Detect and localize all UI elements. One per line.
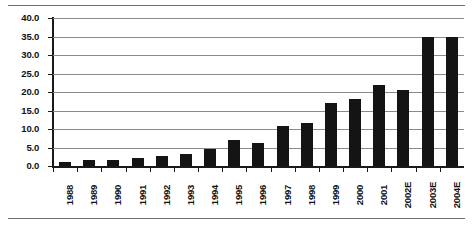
- bar: [349, 99, 361, 166]
- bar: [373, 85, 385, 166]
- bar: [156, 156, 168, 166]
- bar-slot: [246, 18, 270, 166]
- x-axis-tick-mark: [319, 168, 320, 172]
- y-axis-tick-label: 15.0: [0, 106, 39, 116]
- x-axis-tick-label: 2000: [355, 185, 365, 205]
- x-axis-tick-mark: [416, 168, 417, 172]
- x-axis-tick-mark: [246, 168, 247, 172]
- bar: [397, 90, 409, 166]
- bar: [132, 158, 144, 167]
- x-label-slot: 1992: [150, 173, 174, 217]
- bar: [301, 123, 313, 166]
- x-axis-tick-label: 2002E: [403, 182, 413, 208]
- bar: [446, 37, 458, 167]
- y-axis-tick-label: 10.0: [0, 124, 39, 134]
- x-axis-tick-label: 1992: [162, 185, 172, 205]
- x-axis-tick-label: 2001: [379, 185, 389, 205]
- x-label-slot: 1999: [319, 173, 343, 217]
- bottom-divider-rule: [8, 218, 465, 219]
- x-axis-tick-mark: [440, 168, 441, 172]
- x-axis-tick-label: 2003E: [428, 182, 438, 208]
- x-axis-tick-mark: [174, 168, 175, 172]
- bar: [107, 160, 119, 166]
- x-axis-tick-label: 1996: [258, 185, 268, 205]
- bar: [277, 126, 289, 166]
- x-axis-tick-mark: [367, 168, 368, 172]
- bar-chart-figure: 40.035.030.025.020.015.010.05.00.0 19881…: [0, 0, 473, 225]
- bar-slot: [101, 18, 125, 166]
- bar-slot: [150, 18, 174, 166]
- bar-slot: [271, 18, 295, 166]
- x-label-slot: 1994: [198, 173, 222, 217]
- bar: [325, 103, 337, 166]
- bar-slot: [343, 18, 367, 166]
- x-label-slot: 2004E: [440, 173, 464, 217]
- x-label-slot: 1995: [222, 173, 246, 217]
- bar-slot: [416, 18, 440, 166]
- y-axis-tick-label: 35.0: [0, 32, 39, 42]
- x-axis-tick-mark: [101, 168, 102, 172]
- y-axis-tick-label: 30.0: [0, 50, 39, 60]
- bar: [180, 154, 192, 166]
- x-axis-tick-mark: [77, 168, 78, 172]
- x-axis-tick-label: 1999: [331, 185, 341, 205]
- bar: [422, 37, 434, 167]
- x-axis-tick-label: 1993: [186, 185, 196, 205]
- x-label-slot: 2003E: [416, 173, 440, 217]
- top-divider-rule: [8, 5, 465, 6]
- bar-slot: [174, 18, 198, 166]
- x-label-slot: 1998: [295, 173, 319, 217]
- x-axis-tick-label: 1994: [210, 185, 220, 205]
- x-label-slot: 2002E: [391, 173, 415, 217]
- x-axis-tick-mark: [391, 168, 392, 172]
- y-axis-tick-label: 40.0: [0, 13, 39, 23]
- x-axis-tick-label: 1997: [283, 185, 293, 205]
- x-label-slot: 1996: [246, 173, 270, 217]
- x-label-slot: 1990: [101, 173, 125, 217]
- x-axis-tick-mark: [271, 168, 272, 172]
- x-axis-tick-mark: [198, 168, 199, 172]
- bar-slot: [367, 18, 391, 166]
- bar-slot: [53, 18, 77, 166]
- x-label-slot: 1989: [77, 173, 101, 217]
- x-axis-tick-label: 1989: [89, 185, 99, 205]
- bar: [204, 149, 216, 166]
- bar-slot: [295, 18, 319, 166]
- x-axis-tick-mark: [295, 168, 296, 172]
- x-axis-tick-labels: 1988198919901991199219931994199519961997…: [53, 173, 464, 217]
- y-axis-tick-label: 20.0: [0, 87, 39, 97]
- bar-slot: [391, 18, 415, 166]
- bar-slot: [222, 18, 246, 166]
- x-label-slot: 2000: [343, 173, 367, 217]
- x-axis-tick-mark: [53, 168, 54, 172]
- x-axis-tick-mark: [126, 168, 127, 172]
- x-axis-tick-label: 1998: [307, 185, 317, 205]
- x-axis-tick-label: 1995: [234, 185, 244, 205]
- x-axis-tick-label: 1990: [113, 185, 123, 205]
- bar-slot: [198, 18, 222, 166]
- x-label-slot: 1988: [53, 173, 77, 217]
- bar-slot: [440, 18, 464, 166]
- y-axis-tick-label: 5.0: [0, 143, 39, 153]
- x-axis-tick-mark: [343, 168, 344, 172]
- x-axis-tick-label: 1988: [65, 185, 75, 205]
- y-axis-tick-label: 25.0: [0, 69, 39, 79]
- y-axis-tick-mark: [48, 166, 53, 167]
- bars-layer: [53, 18, 464, 166]
- x-label-slot: 2001: [367, 173, 391, 217]
- x-axis-tick-label: 2004E: [452, 182, 462, 208]
- bar-slot: [319, 18, 343, 166]
- bar: [83, 160, 95, 166]
- bar: [59, 162, 71, 166]
- x-label-slot: 1993: [174, 173, 198, 217]
- bar: [228, 140, 240, 166]
- x-axis-tick-mark: [150, 168, 151, 172]
- bar-slot: [77, 18, 101, 166]
- x-axis-tick-label: 1991: [138, 185, 148, 205]
- bar-slot: [126, 18, 150, 166]
- y-axis-tick-label: 0.0: [0, 161, 39, 171]
- x-axis-tick-mark: [222, 168, 223, 172]
- bar: [252, 143, 264, 166]
- x-label-slot: 1991: [126, 173, 150, 217]
- x-label-slot: 1997: [271, 173, 295, 217]
